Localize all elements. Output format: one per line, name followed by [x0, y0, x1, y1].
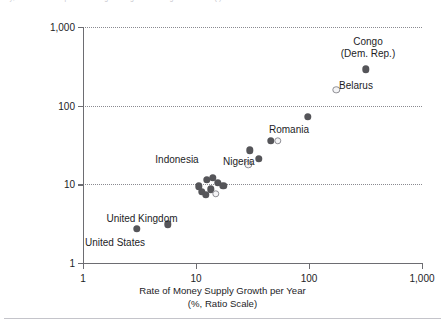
data-point-5	[246, 147, 253, 154]
point-label-romania: Romania	[269, 124, 309, 136]
gridline-100	[83, 106, 422, 107]
data-point-4	[274, 137, 281, 144]
y-tick-label-10: 10	[64, 179, 75, 190]
x-tick-1000	[422, 263, 423, 269]
data-point-2	[304, 113, 311, 120]
x-tick-label-10: 10	[190, 273, 201, 284]
point-label-united-kingdom: United Kingdom	[106, 213, 177, 225]
data-point-14	[202, 191, 209, 198]
data-point-15	[212, 190, 219, 197]
x-axis-title-line1: Rate of Money Supply Growth per Year	[0, 285, 445, 298]
y-tick-10	[78, 184, 84, 185]
point-label-congo-line1: Congo	[353, 36, 382, 47]
data-point-united-states	[133, 225, 140, 232]
y-tick-100	[78, 106, 84, 107]
y-tick-label-100: 100	[58, 100, 75, 111]
x-tick-100	[309, 263, 310, 269]
data-point-11	[220, 182, 227, 189]
data-point-indonesia	[203, 176, 210, 183]
x-tick-label-1000: 1,000	[409, 273, 434, 284]
point-label-belarus: Belarus	[339, 80, 373, 92]
x-axis-title: Rate of Money Supply Growth per Year (%,…	[0, 285, 445, 310]
x-tick-1	[83, 263, 84, 269]
x-tick-10	[196, 263, 197, 269]
clipped-caption-strip: sy, innate and deep into the engineering…	[6, 0, 436, 4]
x-axis-line	[83, 263, 422, 264]
gridline-10	[83, 184, 422, 185]
data-point-congo-dem-rep	[362, 66, 369, 73]
point-label-indonesia: Indonesia	[155, 154, 198, 166]
point-label-united-states: United States	[85, 237, 145, 249]
y-tick-label-1000: 1,000	[50, 22, 75, 33]
x-tick-label-100: 100	[301, 273, 318, 284]
y-tick-1000	[78, 27, 84, 28]
point-label-nigeria: Nigeria	[223, 156, 255, 168]
y-axis-title: Rate of Inflation per Year (%, Ratio Sca…	[0, 0, 9, 30]
x-tick-label-1: 1	[80, 273, 86, 284]
x-axis-title-line2: (%, Ratio Scale)	[0, 298, 445, 311]
point-label-congo: Congo (Dem. Rep.)	[341, 36, 395, 59]
y-axis-line	[83, 27, 84, 263]
data-point-6	[255, 155, 262, 162]
y-tick-label-1: 1	[69, 258, 75, 269]
scatter-chart-figure: sy, innate and deep into the engineering…	[0, 0, 445, 326]
gridline-1000	[83, 27, 422, 28]
footer-rule	[4, 318, 441, 319]
point-label-congo-line2: (Dem. Rep.)	[341, 48, 395, 59]
plot-area: 1,000 100 10 1 1 10 100 1,000 Congo (Dem…	[83, 27, 422, 263]
